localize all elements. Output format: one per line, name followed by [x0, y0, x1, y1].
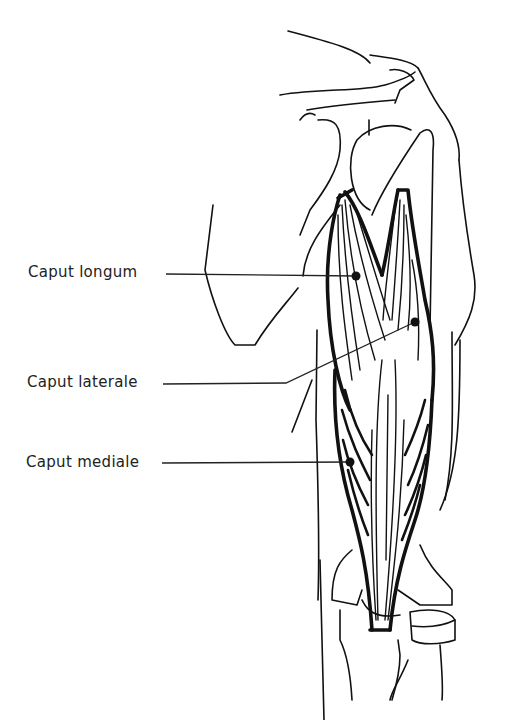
- marker-dot-caput-laterale: [411, 318, 420, 327]
- arm-drawing: [0, 0, 509, 720]
- leader-line-caput-mediale: [162, 462, 350, 463]
- leader-line-caput-laterale: [163, 322, 415, 384]
- label-caput-laterale: Caput laterale: [27, 373, 138, 391]
- triceps-anatomy-diagram: Caput longum Caput laterale Caput medial…: [0, 0, 509, 720]
- marker-dot-caput-longum: [352, 272, 361, 281]
- marker-dot-caput-mediale: [346, 458, 355, 467]
- label-caput-mediale: Caput mediale: [26, 453, 139, 471]
- label-caput-longum: Caput longum: [28, 263, 137, 281]
- caput-mediale-muscle: [335, 360, 432, 630]
- caput-laterale-muscle: [382, 190, 434, 400]
